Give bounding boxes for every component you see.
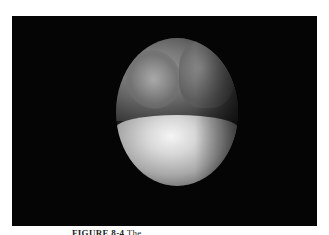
caption-label: FIGURE 8-4: [72, 228, 124, 235]
vignette-shadow: [195, 38, 238, 186]
figure-caption: FIGURE 8-4 The ...: [72, 228, 152, 235]
caption-text: The ...: [127, 228, 152, 235]
endoscopic-view: [116, 38, 238, 186]
